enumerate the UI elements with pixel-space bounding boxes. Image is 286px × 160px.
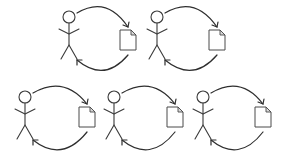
document-icon xyxy=(209,30,225,50)
curved-arrow-icon xyxy=(77,55,128,70)
document-icon xyxy=(255,107,271,127)
curved-arrow-icon xyxy=(122,132,175,150)
curved-arrow-icon xyxy=(122,86,176,104)
curved-arrow-icon xyxy=(211,86,264,104)
curved-arrow-icon xyxy=(211,132,263,150)
diagram-canvas xyxy=(0,0,286,160)
stick-figure-icon xyxy=(15,91,35,139)
curved-arrow-icon xyxy=(77,7,129,27)
diagram-svg xyxy=(0,0,286,160)
cycle-group xyxy=(15,86,95,150)
stick-figure-icon xyxy=(104,91,124,139)
stick-figure-icon xyxy=(193,91,213,139)
document-icon xyxy=(167,107,183,127)
document-icon xyxy=(120,30,136,50)
cycle-group xyxy=(104,86,183,150)
curved-arrow-icon xyxy=(165,7,218,27)
curved-arrow-icon xyxy=(33,86,88,104)
stick-figure-icon xyxy=(59,11,79,59)
stick-figure-icon xyxy=(147,11,167,59)
cycle-group xyxy=(59,7,136,71)
cycle-group xyxy=(193,86,271,150)
document-icon xyxy=(79,107,95,127)
cycle-group xyxy=(147,7,225,71)
curved-arrow-icon xyxy=(165,55,217,70)
curved-arrow-icon xyxy=(33,132,87,150)
